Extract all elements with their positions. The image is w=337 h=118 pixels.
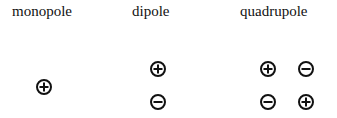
negative-charge-icon <box>149 93 167 111</box>
positive-charge-icon <box>35 78 53 96</box>
positive-charge-icon <box>297 93 315 111</box>
quadrupole-label: quadrupole <box>240 3 307 20</box>
positive-charge-icon <box>149 60 167 78</box>
positive-charge-icon <box>259 60 277 78</box>
monopole-label: monopole <box>12 3 72 20</box>
negative-charge-icon <box>297 60 315 78</box>
negative-charge-icon <box>259 93 277 111</box>
dipole-label: dipole <box>132 3 170 20</box>
